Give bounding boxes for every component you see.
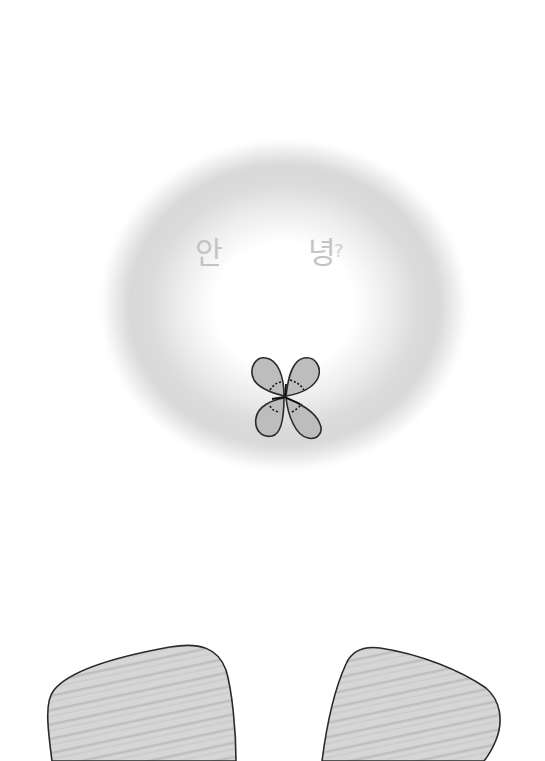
- feet-drawing: [0, 630, 545, 761]
- greeting-question-mark: ?: [334, 240, 344, 261]
- greeting-syllable-2: 녕: [308, 228, 336, 272]
- illustration-canvas: 안 녕 ?: [0, 0, 545, 761]
- greeting-syllable-1: 안: [195, 228, 223, 272]
- left-foot: [48, 645, 236, 761]
- four-leaf-clover-icon: [246, 354, 326, 440]
- right-foot: [322, 648, 500, 761]
